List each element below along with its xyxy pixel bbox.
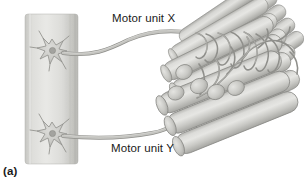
- muscle-fiber-bundle: [153, 0, 304, 158]
- panel-label: (a): [3, 165, 17, 177]
- figure-motor-units: Motor unit X Motor unit Y (a): [0, 0, 304, 183]
- label-motor-unit-y: Motor unit Y: [111, 142, 174, 154]
- diagram-canvas: [0, 0, 304, 183]
- label-motor-unit-x: Motor unit X: [112, 12, 175, 24]
